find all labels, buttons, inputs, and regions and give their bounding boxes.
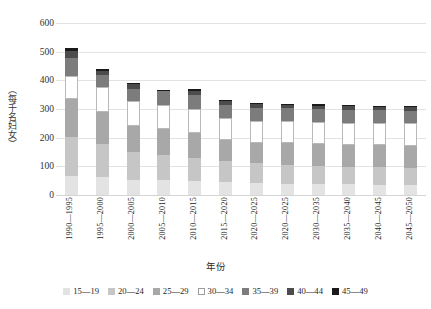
bar-segment	[312, 122, 325, 144]
bar-segment	[188, 181, 201, 195]
bar-segment	[404, 146, 417, 168]
x-tick-label: 2030—2035	[312, 197, 324, 240]
x-tick-label: 2005—2010	[158, 197, 170, 240]
bar-segment	[96, 75, 109, 87]
bar-segment	[157, 180, 170, 195]
bar-segment	[404, 185, 417, 195]
legend-swatch-icon	[63, 288, 70, 295]
bar-segment	[127, 126, 140, 152]
bar-segment	[404, 168, 417, 185]
bar-column[interactable]	[65, 48, 78, 195]
x-tick-label: 1995—2000	[96, 197, 108, 240]
y-axis-tick-labels: 0100200300400500600	[22, 15, 54, 205]
bar-segment	[373, 123, 386, 145]
legend-swatch-icon	[198, 288, 205, 295]
bar-segment	[127, 89, 140, 101]
legend-item[interactable]: 25—29	[153, 286, 189, 296]
bar-column[interactable]	[188, 89, 201, 195]
bar-segment	[65, 137, 78, 175]
bar-segment	[96, 144, 109, 176]
gridline-0	[56, 195, 426, 196]
bar-segment	[373, 145, 386, 167]
bar-segment	[188, 109, 201, 133]
bar-segment	[404, 111, 417, 124]
legend-swatch-icon	[287, 288, 294, 295]
x-tick-label: 1990—1995	[65, 197, 77, 240]
bar-column[interactable]	[373, 106, 386, 195]
legend-item[interactable]: 40—44	[287, 286, 323, 296]
bar-segment	[250, 121, 263, 143]
legend-label: 40—44	[297, 286, 323, 296]
x-axis-tick-labels: 1990—19951995—20002000—20052005—20102010…	[56, 197, 426, 257]
bar-column[interactable]	[250, 103, 263, 195]
x-tick-label: 2015—2020	[220, 197, 232, 240]
y-tick-200: 200	[40, 133, 54, 143]
legend-item[interactable]: 20—24	[108, 286, 144, 296]
bar-segment	[127, 101, 140, 126]
x-tick-label: 2000—2005	[127, 197, 139, 240]
bar-segment	[127, 152, 140, 180]
legend-label: 20—24	[118, 286, 144, 296]
bar-segment	[312, 184, 325, 195]
bar-segment	[157, 91, 170, 105]
bar-column[interactable]	[404, 106, 417, 195]
bar-segment	[281, 121, 294, 143]
bar-column[interactable]	[281, 104, 294, 195]
bar-segment	[250, 108, 263, 121]
y-tick-100: 100	[40, 161, 54, 171]
legend-swatch-icon	[242, 288, 249, 295]
bar-segment	[96, 177, 109, 195]
bar-segment	[219, 140, 232, 161]
bar-segment	[65, 99, 78, 137]
bar-segment	[373, 167, 386, 184]
bar-segment	[219, 105, 232, 118]
x-tick-label: 2045—2050	[405, 197, 417, 240]
y-tick-300: 300	[40, 104, 54, 114]
bar-segment	[65, 58, 78, 75]
x-tick-label: 2040—2045	[374, 197, 386, 240]
bar-segment	[188, 158, 201, 181]
bar-segment	[342, 184, 355, 195]
bar-segment	[127, 180, 140, 195]
bar-segment	[219, 118, 232, 140]
x-tick-label: 2020—2025	[281, 197, 293, 240]
bar-column[interactable]	[312, 104, 325, 195]
x-tick-label: 2035—2040	[343, 197, 355, 240]
y-tick-0: 0	[49, 190, 54, 200]
legend-swatch-icon	[153, 288, 160, 295]
legend-label: 15—19	[73, 286, 99, 296]
bar-segment	[312, 109, 325, 122]
y-tick-600: 600	[40, 18, 54, 28]
y-tick-400: 400	[40, 75, 54, 85]
y-axis-title: （每千名妇女）	[4, 56, 22, 176]
bar-column[interactable]	[342, 105, 355, 195]
bar-segment	[219, 182, 232, 195]
legend-item[interactable]: 30—34	[198, 286, 234, 296]
bar-series-group	[56, 23, 426, 195]
bar-column[interactable]	[219, 100, 232, 195]
bar-segment	[312, 144, 325, 166]
legend-item[interactable]: 15—19	[63, 286, 99, 296]
bar-segment	[157, 129, 170, 155]
legend-item[interactable]: 45—49	[332, 286, 368, 296]
legend-label: 25—29	[163, 286, 189, 296]
bar-segment	[188, 95, 201, 109]
x-axis-title: 年份	[0, 259, 431, 273]
bar-segment	[157, 155, 170, 180]
bar-segment	[373, 185, 386, 195]
bar-segment	[404, 123, 417, 145]
bar-segment	[65, 176, 78, 195]
plot-area	[56, 23, 426, 195]
bar-segment	[219, 161, 232, 182]
bar-segment	[250, 143, 263, 164]
bar-column[interactable]	[157, 90, 170, 195]
bar-column[interactable]	[127, 83, 140, 195]
bar-segment	[312, 166, 325, 184]
bar-segment	[157, 105, 170, 129]
legend-item[interactable]: 35—39	[242, 286, 278, 296]
bar-column[interactable]	[96, 69, 109, 195]
stacked-bar-chart: （每千名妇女） 0100200300400500600 1990—1995199…	[0, 0, 431, 309]
legend-label: 35—39	[252, 286, 278, 296]
bar-segment	[281, 165, 294, 184]
legend-swatch-icon	[332, 288, 339, 295]
